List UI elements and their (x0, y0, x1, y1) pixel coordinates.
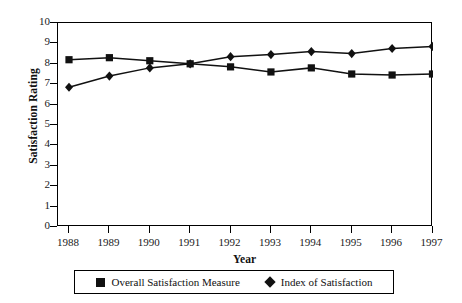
diamond-marker-icon (227, 52, 235, 61)
y-axis-tick-mark (50, 63, 57, 64)
y-axis-tick-mark (50, 226, 57, 227)
y-axis-tick-label: 9 (36, 36, 50, 47)
y-axis-tick-mark (50, 206, 57, 207)
diamond-marker-icon (348, 49, 356, 58)
chart-figure: Satisfaction Rating 012345678910 1988198… (0, 0, 462, 303)
x-axis-tick-label: 1991 (167, 236, 211, 248)
y-axis-tick-label: 1 (36, 200, 50, 211)
x-axis-tick-label: 1996 (369, 236, 413, 248)
y-axis-tick-labels: 012345678910 (28, 0, 50, 303)
y-axis-tick-mark (50, 83, 57, 84)
x-axis-tick-label: 1995 (329, 236, 373, 248)
legend-item: Overall Satisfaction Measure (96, 276, 240, 288)
legend-item: Index of Satisfaction (266, 276, 373, 288)
diamond-marker-icon (146, 63, 154, 72)
x-axis-tick-mark (230, 226, 231, 233)
x-axis-tick-label: 1990 (127, 236, 171, 248)
diamond-marker-icon (267, 50, 275, 59)
series-lines (58, 23, 433, 227)
y-axis-tick-label: 10 (36, 16, 50, 27)
y-axis-tick-mark (50, 144, 57, 145)
chart-legend: Overall Satisfaction Measure Index of Sa… (74, 270, 394, 294)
x-axis-tick-label: 1997 (410, 236, 454, 248)
diamond-marker-icon (429, 42, 434, 51)
diamond-marker-icon (307, 47, 315, 56)
series-line (69, 58, 433, 75)
x-axis-tick-mark (391, 226, 392, 233)
x-axis-tick-label: 1994 (288, 236, 332, 248)
square-marker-icon (96, 278, 105, 287)
y-axis-tick-label: 8 (36, 57, 50, 68)
y-axis-tick-mark (50, 185, 57, 186)
square-marker-icon (65, 56, 72, 63)
x-axis-tick-mark (189, 226, 190, 233)
x-axis-tick-mark (68, 226, 69, 233)
diamond-marker-icon (388, 44, 396, 53)
y-axis-tick-label: 0 (36, 220, 50, 231)
y-axis-tick-mark (50, 42, 57, 43)
y-axis-tick-mark (50, 22, 57, 23)
y-axis-tick-mark (50, 165, 57, 166)
x-axis-title: Year (57, 253, 432, 265)
plot-area (57, 22, 432, 226)
y-axis-tick-label: 4 (36, 138, 50, 149)
square-marker-icon (389, 71, 396, 78)
square-marker-icon (267, 68, 274, 75)
x-axis-tick-mark (270, 226, 271, 233)
y-axis-tick-mark (50, 104, 57, 105)
legend-item-label: Index of Satisfaction (281, 276, 373, 288)
y-axis-tick-label: 3 (36, 159, 50, 170)
x-axis-tick-label: 1993 (248, 236, 292, 248)
series-line (69, 46, 433, 87)
diamond-marker-icon (264, 276, 275, 287)
diamond-marker-icon (65, 83, 73, 92)
square-marker-icon (348, 70, 355, 77)
square-marker-icon (429, 70, 433, 77)
square-marker-icon (106, 54, 113, 61)
x-axis-tick-mark (310, 226, 311, 233)
x-axis-tick-mark (432, 226, 433, 233)
x-axis-tick-mark (108, 226, 109, 233)
y-axis-tick-label: 2 (36, 179, 50, 190)
square-marker-icon (227, 63, 234, 70)
legend-item-label: Overall Satisfaction Measure (112, 276, 240, 288)
square-marker-icon (146, 57, 153, 64)
y-axis-tick-label: 6 (36, 98, 50, 109)
x-axis-tick-mark (351, 226, 352, 233)
x-axis-tick-label: 1988 (46, 236, 90, 248)
y-axis-tick-mark (50, 124, 57, 125)
square-marker-icon (308, 64, 315, 71)
x-axis-tick-label: 1989 (86, 236, 130, 248)
y-axis-tick-label: 7 (36, 77, 50, 88)
x-axis-tick-mark (149, 226, 150, 233)
x-axis-tick-label: 1992 (208, 236, 252, 248)
diamond-marker-icon (105, 71, 113, 80)
y-axis-tick-label: 5 (36, 118, 50, 129)
